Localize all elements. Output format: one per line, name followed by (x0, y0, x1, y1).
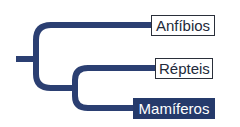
branch-anfibios (36, 25, 152, 59)
taxon-mamiferos: Mamíferos (133, 98, 215, 119)
branch-repteis (75, 68, 156, 88)
branch-mamiferos (75, 88, 134, 108)
branch-inner (36, 59, 75, 88)
taxon-repteis: Répteis (155, 58, 213, 79)
taxon-anfibios: Anfíbios (151, 15, 215, 36)
